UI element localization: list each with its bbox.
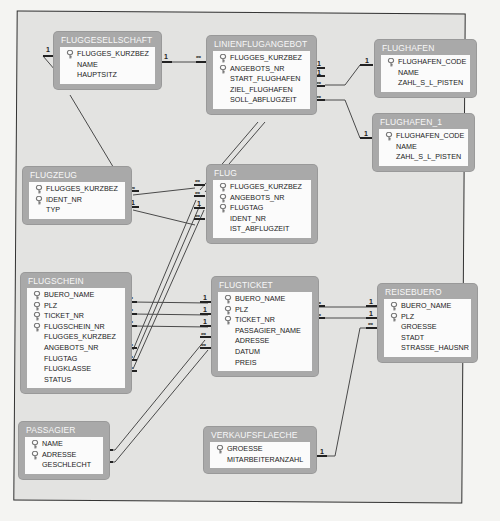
field-row[interactable]: IDENT_NR (217, 214, 307, 225)
field-row[interactable]: PLZ (388, 312, 467, 323)
table-title: FLUG (213, 165, 311, 180)
key-icon (216, 445, 224, 454)
field-row[interactable]: MITARBEITERANZAHL (214, 455, 306, 466)
cardinality-many: ∞ (196, 53, 201, 60)
field-list: FLUGGES_KURZBEZ IDENT_NR TYP (29, 182, 125, 219)
field-row[interactable]: GROESSE (214, 444, 306, 455)
field-row[interactable]: FLUGHAFEN_CODE (385, 57, 466, 68)
cardinality-one: 1 (203, 306, 207, 313)
field-list: FLUGHAFEN_CODE NAME ZAHL_S_L_PISTEN (379, 129, 468, 166)
field-row[interactable]: BUERO_NAME (31, 290, 121, 301)
table-title: PASSAGIER (25, 422, 103, 437)
key-icon (219, 204, 227, 213)
field-row[interactable]: PASSAGIER_NAME (222, 326, 308, 337)
field-row[interactable]: NAME (385, 68, 466, 79)
field-row[interactable]: FLUGGES_KURZBEZ (64, 49, 151, 60)
field-row[interactable]: FLUGTAG (217, 203, 307, 214)
cardinality-one: 1 (203, 318, 207, 325)
field-row[interactable]: FLUGKLASSE (31, 364, 121, 375)
table-fluggesellschaft[interactable]: FLUGGESELLSCHAFT FLUGGES_KURZBEZ NAME HA… (54, 32, 161, 89)
field-row[interactable]: ANGEBOTS_NR (217, 64, 306, 75)
key-icon (66, 50, 74, 59)
field-row[interactable]: NAME (64, 60, 151, 71)
key-icon (224, 295, 232, 304)
key-icon (31, 440, 39, 449)
table-passagier[interactable]: PASSAGIER NAME ADRESSE GESCHLECHT (19, 422, 109, 479)
field-row[interactable]: PREIS (222, 358, 308, 369)
table-reisebuero[interactable]: REISEBUERO BUERO_NAME PLZ GROESSE STADT … (378, 284, 477, 362)
field-row[interactable]: FLUGSCHEIN_NR (31, 322, 121, 333)
field-row[interactable]: ZAHL_S_L_PISTEN (383, 152, 464, 163)
field-row[interactable]: HAUPTSITZ (64, 70, 151, 81)
field-row[interactable]: DATUM (222, 347, 308, 358)
field-row[interactable]: FLUGGES_KURZBEZ (217, 182, 307, 193)
table-flughafen-1[interactable]: FLUGHAFEN_1 FLUGHAFEN_CODE NAME ZAHL_S_L… (373, 114, 474, 171)
field-row[interactable]: PLZ (222, 305, 308, 316)
key-icon (35, 196, 43, 205)
field-row[interactable]: FLUGTAG (31, 354, 121, 365)
field-row[interactable]: NAME (383, 142, 464, 153)
field-row[interactable]: IST_ABFLUGZEIT (217, 224, 307, 235)
field-row[interactable]: ZIEL_FLUGHAFEN (217, 85, 306, 96)
field-list: BUERO_NAME PLZ GROESSE STADT STRASSE_HAU… (384, 299, 471, 357)
cardinality-many: ∞ (316, 79, 321, 86)
field-row[interactable]: IDENT_NR (33, 195, 121, 206)
field-row[interactable]: ADRESSE (222, 336, 308, 347)
table-verkaufsflaeche[interactable]: VERKAUFSFLAECHE GROESSE MITARBEITERANZAH… (204, 427, 316, 473)
key-icon (35, 185, 43, 194)
field-row[interactable]: GROESSE (388, 322, 467, 333)
cardinality-one: 1 (317, 69, 321, 76)
field-row[interactable]: START_FLUGHAFEN (217, 74, 306, 85)
field-row[interactable]: ADRESSE (29, 450, 99, 461)
field-row[interactable]: TYP (33, 205, 121, 216)
table-flugzeug[interactable]: FLUGZEUG FLUGGES_KURZBEZ IDENT_NR TYP (23, 167, 131, 224)
key-icon (390, 302, 398, 311)
field-row[interactable]: PLZ (31, 301, 121, 312)
cardinality-one: 1 (364, 130, 368, 137)
field-row[interactable]: GESCHLECHT (29, 460, 99, 471)
cardinality-many: ∞ (201, 341, 206, 348)
key-icon (219, 54, 227, 63)
field-row[interactable]: SOLL_ABFLUGZEIT (217, 95, 306, 106)
table-title: FLUGHAFEN_1 (379, 114, 468, 129)
field-row[interactable]: ZAHL_S_L_PISTEN (385, 78, 466, 89)
key-icon (33, 312, 41, 321)
key-icon (387, 58, 395, 67)
cardinality-one: 1 (369, 310, 373, 317)
field-row[interactable]: ANGEBOTS_NR (217, 193, 307, 204)
field-row[interactable]: STATUS (31, 375, 121, 386)
table-flugschein[interactable]: FLUGSCHEIN BUERO_NAME PLZ TICKET_NR FLUG… (21, 273, 131, 393)
field-list: BUERO_NAME PLZ TICKET_NR FLUGSCHEIN_NR F… (27, 288, 125, 388)
key-icon (33, 302, 41, 311)
field-row[interactable]: STRASSE_HAUSNR (388, 343, 467, 354)
table-title: FLUGHAFEN (381, 40, 470, 55)
field-row[interactable]: FLUGGES_KURZBEZ (31, 332, 121, 343)
field-row[interactable]: FLUGGES_KURZBEZ (217, 53, 306, 64)
cardinality-one: 1 (131, 199, 135, 206)
key-icon (224, 316, 232, 325)
key-icon (219, 194, 227, 203)
table-linienflugangebot[interactable]: LINIENFLUGANGEBOT FLUGGES_KURZBEZ ANGEBO… (207, 36, 316, 114)
key-icon (219, 183, 227, 192)
table-flug[interactable]: FLUG FLUGGES_KURZBEZ ANGEBOTS_NR FLUGTAG… (207, 165, 317, 243)
key-icon (385, 132, 393, 141)
field-list: FLUGGES_KURZBEZ NAME HAUPTSITZ (60, 47, 155, 84)
table-flugticket[interactable]: FLUGTICKET BUERO_NAME PLZ TICKET_NR PASS… (212, 277, 318, 376)
cardinality-many: ∞ (316, 93, 321, 100)
field-row[interactable]: STADT (388, 333, 467, 344)
field-row[interactable]: FLUGHAFEN_CODE (383, 131, 464, 142)
key-icon (33, 291, 41, 300)
cardinality-many: ∞ (195, 177, 200, 184)
field-row[interactable]: BUERO_NAME (222, 294, 308, 305)
field-row[interactable]: FLUGGES_KURZBEZ (33, 184, 121, 195)
field-row[interactable]: ANGEBOTS_NR (31, 343, 121, 354)
table-title: FLUGZEUG (29, 167, 125, 182)
table-title: REISEBUERO (384, 284, 471, 299)
table-flughafen[interactable]: FLUGHAFEN FLUGHAFEN_CODE NAME ZAHL_S_L_P… (375, 40, 476, 97)
cardinality-many: ∞ (201, 330, 206, 337)
field-row[interactable]: BUERO_NAME (388, 301, 467, 312)
field-row[interactable]: NAME (29, 439, 99, 450)
cardinality-one: 1 (317, 60, 321, 67)
field-row[interactable]: TICKET_NR (31, 311, 121, 322)
field-row[interactable]: TICKET_NR (222, 315, 308, 326)
